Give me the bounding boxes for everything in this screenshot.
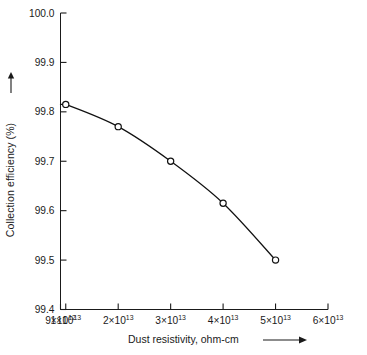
y-axis-arrow-icon (5, 72, 17, 94)
x-axis-title: Dust resistivity, ohm-cm (128, 333, 239, 345)
x-axis-arrow-icon (262, 334, 308, 346)
chart-figure: 99.499.599.699.799.899.9100.0 9×10121×10… (0, 0, 367, 355)
data-point-marker (63, 101, 69, 107)
y-tick-label: 99.7 (35, 156, 55, 167)
y-axis-title-wrapper: Collection efficiency (%) (0, 95, 20, 265)
y-axis-title: Collection efficiency (%) (4, 123, 16, 237)
data-point-marker (115, 124, 121, 130)
data-point-marker (168, 158, 174, 164)
y-tick-label: 99.9 (35, 57, 55, 68)
y-tick-label: 99.5 (35, 255, 55, 266)
y-tick-label: 100.0 (29, 8, 55, 19)
y-tick-label: 99.8 (35, 106, 55, 117)
y-tick-label: 99.6 (35, 205, 55, 216)
figure-background (0, 0, 367, 355)
data-point-marker (272, 257, 278, 263)
y-tick-label: 99.4 (35, 304, 55, 315)
data-point-marker (220, 200, 226, 206)
